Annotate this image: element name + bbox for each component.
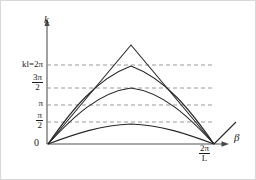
curve-next-zone-line bbox=[214, 122, 236, 144]
y-axis-label: k bbox=[44, 13, 49, 25]
x-axis-arrow bbox=[222, 141, 230, 147]
fraction-numerator: π bbox=[36, 111, 43, 120]
y-tick-text-pi: π bbox=[38, 98, 43, 108]
dispersion-diagram-figure: k β kl=2π 3π 2 π π 2 0 2π L bbox=[0, 0, 256, 180]
fraction-numerator: 2π bbox=[199, 144, 210, 153]
y-tick-label-kl2pi: kl=2π bbox=[22, 60, 43, 69]
fraction-denominator: 2 bbox=[36, 120, 43, 130]
curve-light-line-triangle bbox=[48, 45, 214, 144]
y-tick-label-pi-2: π 2 bbox=[36, 111, 43, 131]
fraction-denominator: L bbox=[199, 153, 210, 163]
y-tick-label-pi: π bbox=[38, 99, 43, 108]
curve-mode-1 bbox=[48, 124, 214, 144]
x-tick-label-2pi-over-L: 2π L bbox=[199, 144, 210, 164]
fraction-3pi-2: 3π 2 bbox=[32, 73, 43, 93]
origin-label: 0 bbox=[34, 138, 39, 148]
y-tick-label-3pi-2: 3π 2 bbox=[32, 73, 43, 93]
fraction-pi-2: π 2 bbox=[36, 111, 43, 131]
x-axis-label: β bbox=[234, 131, 239, 143]
fraction-denominator: 2 bbox=[32, 82, 43, 92]
axes-lines bbox=[44, 19, 229, 147]
fraction-2pi-L: 2π L bbox=[199, 144, 210, 164]
y-tick-text-kl2pi: kl=2π bbox=[22, 59, 43, 69]
fraction-numerator: 3π bbox=[32, 73, 43, 82]
